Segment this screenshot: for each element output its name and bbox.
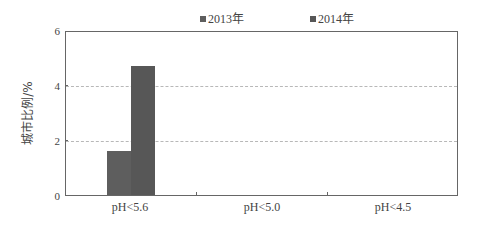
x-tick-label-ph-5-6: pH<5.6 <box>90 200 170 214</box>
legend-label-2014: 2014年 <box>318 12 354 26</box>
legend-label-2013: 2013年 <box>208 12 244 26</box>
x-tick-2 <box>327 192 328 195</box>
y-tick-4 <box>65 85 68 86</box>
gridline-2 <box>66 141 457 142</box>
legend-swatch-2014 <box>310 16 316 22</box>
gridline-4 <box>66 86 457 87</box>
bar-2014-ph-5-6 <box>131 66 155 195</box>
y-tick-label-2: 2 <box>40 135 60 147</box>
x-tick-label-ph-5-0: pH<5.0 <box>222 200 302 214</box>
legend-item-2014: 2014年 <box>310 12 354 26</box>
x-tick-label-ph-4-5: pH<4.5 <box>353 200 433 214</box>
legend-item-2013: 2013年 <box>200 12 244 26</box>
y-tick-label-6: 6 <box>40 25 60 37</box>
y-axis-label: 城市比例/% <box>18 81 35 144</box>
y-tick-2 <box>65 140 68 141</box>
y-tick-label-0: 0 <box>40 190 60 202</box>
legend: 2013年 2014年 <box>0 12 482 28</box>
x-tick-1 <box>196 192 197 195</box>
bar-2013-ph-5-6 <box>107 151 131 195</box>
y-tick-label-4: 4 <box>40 80 60 92</box>
plot-area <box>65 31 458 196</box>
legend-swatch-2013 <box>200 16 206 22</box>
